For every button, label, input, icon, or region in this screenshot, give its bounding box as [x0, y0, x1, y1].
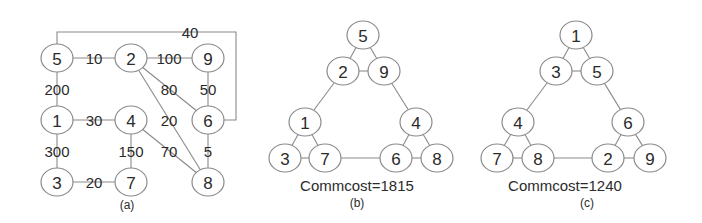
node-8: 8 [522, 144, 554, 172]
node-1: 1 [289, 108, 321, 136]
edge-weight-1-4: 30 [86, 112, 103, 129]
node-7: 7 [309, 144, 341, 172]
node-5: 5 [41, 44, 73, 72]
edge-weight-5-6: 40 [182, 24, 199, 41]
node-label: 8 [203, 174, 212, 193]
node-label: 3 [551, 63, 560, 82]
edge-weight-9-6: 50 [200, 81, 217, 98]
edge-weight-2-9: 100 [156, 50, 181, 67]
node-5: 5 [347, 21, 379, 49]
node-4: 4 [115, 106, 147, 134]
panel-caption: (b) [350, 196, 365, 210]
node-label: 9 [203, 50, 212, 69]
node-label: 1 [300, 114, 309, 133]
edge-weight-4-8: 70 [161, 143, 178, 160]
node-label: 7 [320, 150, 329, 169]
edge-5-6 [605, 83, 621, 109]
node-9: 9 [368, 57, 400, 85]
node-layer: 529146378 [41, 44, 224, 196]
node-2: 2 [115, 44, 147, 72]
panel-c-mapping: 135467829Commcost=1240(c) [481, 21, 666, 210]
node-9: 9 [634, 144, 666, 172]
edge-4-6 [403, 135, 409, 146]
node-6: 6 [612, 108, 644, 136]
node-6: 6 [380, 144, 412, 172]
node-layer: 529143768 [269, 21, 453, 172]
edge-weight-2-8: 20 [161, 112, 178, 129]
node-label: 7 [492, 150, 501, 169]
node-4: 4 [502, 108, 534, 136]
edge-weight-5-2: 10 [86, 50, 103, 67]
edge-2-1 [314, 83, 335, 111]
edge-weight-6-8: 5 [204, 143, 212, 160]
edge-1-7 [312, 135, 318, 146]
node-label: 6 [391, 150, 400, 169]
node-1: 1 [41, 106, 73, 134]
node-8: 8 [421, 144, 453, 172]
node-label: 2 [126, 50, 135, 69]
edge-5-9 [370, 47, 376, 58]
node-label: 2 [338, 63, 347, 82]
edge-5-2 [350, 48, 356, 59]
edge-weight-2-6: 80 [161, 81, 178, 98]
edge-6-2 [615, 135, 621, 146]
node-1: 1 [560, 21, 592, 49]
node-5: 5 [581, 57, 613, 85]
node-7: 7 [481, 144, 513, 172]
node-label: 5 [358, 27, 367, 46]
node-3: 3 [41, 168, 73, 196]
node-label: 4 [126, 112, 135, 131]
node-8: 8 [192, 168, 224, 196]
edge-4-8 [525, 135, 531, 146]
node-9: 9 [192, 44, 224, 72]
edge-1-3 [563, 48, 569, 59]
edge-weight-1-3: 300 [44, 143, 69, 160]
commcost-label: Commcost=1815 [300, 177, 414, 194]
edge-weight-5-1: 200 [44, 81, 69, 98]
edge-6-9 [636, 134, 643, 145]
node-label: 3 [280, 150, 289, 169]
panel-caption: (a) [120, 198, 135, 212]
node-label: 3 [52, 174, 61, 193]
edge-3-4 [527, 83, 548, 111]
panel-caption: (c) [580, 196, 594, 210]
node-2: 2 [327, 57, 359, 85]
node-7: 7 [115, 168, 147, 196]
edge-weight-4-7: 150 [118, 143, 143, 160]
diagram-svg: 10100200503030015052080207040529146378(a… [0, 0, 702, 223]
node-label: 7 [126, 174, 135, 193]
edge-layer [292, 47, 430, 158]
edge-4-8 [423, 134, 429, 145]
edge-weight-3-7: 20 [86, 174, 103, 191]
node-6: 6 [192, 106, 224, 134]
node-3: 3 [269, 144, 301, 172]
node-label: 9 [379, 63, 388, 82]
panel-b-mapping: 529143768Commcost=1815(b) [269, 21, 453, 210]
node-layer: 135467829 [481, 21, 666, 172]
edge-layer [504, 47, 642, 158]
edge-4-7 [504, 134, 510, 145]
node-label: 4 [411, 114, 420, 133]
node-label: 9 [645, 150, 654, 169]
node-label: 5 [592, 63, 601, 82]
node-label: 6 [203, 112, 212, 131]
diagram-canvas: 10100200503030015052080207040529146378(a… [0, 0, 702, 223]
commcost-label: Commcost=1240 [508, 177, 622, 194]
node-label: 2 [603, 150, 612, 169]
panel-a-task-graph: 10100200503030015052080207040529146378(a… [41, 24, 236, 213]
edge-1-5 [583, 47, 589, 58]
node-label: 1 [571, 27, 580, 46]
node-label: 6 [623, 114, 632, 133]
node-label: 5 [52, 50, 61, 69]
node-label: 8 [533, 150, 542, 169]
edge-1-3 [292, 135, 298, 146]
node-3: 3 [540, 57, 572, 85]
node-label: 8 [432, 150, 441, 169]
node-2: 2 [592, 144, 624, 172]
edge-9-4 [392, 83, 409, 109]
node-4: 4 [400, 108, 432, 136]
node-label: 4 [513, 114, 522, 133]
node-label: 1 [52, 112, 61, 131]
